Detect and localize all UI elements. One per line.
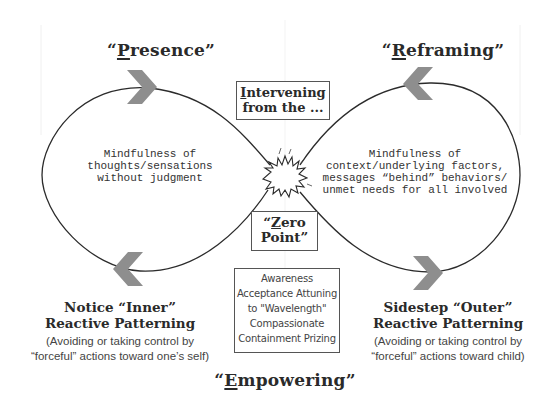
outer-patterning-subtitle: (Avoiding or taking control by [353, 334, 543, 349]
presence-heading: “Presence” [86, 40, 236, 60]
zero-point-line1: “Zero [252, 215, 317, 230]
quality-item: Compassionate [235, 316, 339, 331]
intervening-line2: from the ... [237, 100, 329, 115]
left-loop-line: without judgment [80, 172, 220, 184]
inner-patterning-title: Reactive Patterning [20, 315, 220, 331]
left-loop-text: Mindfulness of thoughts/sensations witho… [80, 148, 220, 184]
intervening-box: Intervening from the ... [236, 81, 330, 120]
inner-patterning-subtitle: (Avoiding or taking control by [20, 334, 220, 349]
inner-patterning-subtitle: “forceful” actions toward one’s self) [20, 349, 220, 364]
inner-patterning-title: Notice “Inner” [20, 299, 220, 315]
right-loop-line: context/underlying factors, [305, 160, 525, 172]
left-loop-line: Mindfulness of [80, 148, 220, 160]
inner-patterning-block: Notice “Inner” Reactive Patterning (Avoi… [20, 299, 220, 364]
figure-eight-diagram: “Presence” “Reframing” Intervening from … [0, 0, 547, 414]
left-loop-line: thoughts/sensations [80, 160, 220, 172]
qualities-list: Awareness Acceptance Attuning to "Wavele… [235, 271, 339, 346]
intervening-line1: Intervening [237, 85, 329, 100]
right-loop-line: unmet needs for all involved [305, 184, 525, 196]
right-loop-text: Mindfulness of context/underlying factor… [305, 148, 525, 196]
chevron-left-icon-bottom-left [113, 252, 143, 286]
quality-item: Awareness [235, 271, 339, 286]
outer-patterning-subtitle: “forceful” actions toward child) [353, 349, 543, 364]
outer-patterning-title: Sidestep “Outer” [353, 299, 543, 315]
zero-point-box: “Zero Point” [251, 211, 318, 251]
outer-patterning-block: Sidestep “Outer” Reactive Patterning (Av… [353, 299, 543, 364]
qualities-box: Awareness Acceptance Attuning to "Wavele… [234, 268, 340, 353]
empowering-heading: “Empowering” [200, 370, 370, 390]
quality-item: Containment Prizing [235, 331, 339, 346]
quality-item: Acceptance Attuning [235, 286, 339, 301]
outer-patterning-title: Reactive Patterning [353, 315, 543, 331]
reframing-heading: “Reframing” [368, 40, 518, 60]
right-loop-line: Mindfulness of [305, 148, 525, 160]
right-loop-line: messages “behind” behaviors/ [305, 172, 525, 184]
quality-item: to "Wavelength" [235, 301, 339, 316]
zero-point-line2: Point” [252, 230, 317, 245]
chevron-right-icon-top-left [127, 70, 157, 104]
chevron-right-icon-bottom-right [413, 256, 443, 290]
